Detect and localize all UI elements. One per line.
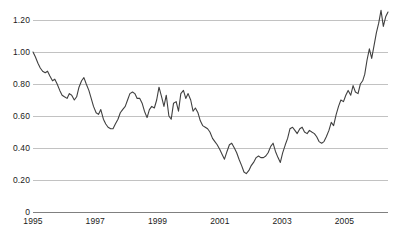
x-axis-tick-label: 1997 [75,217,115,226]
y-axis-tick-label: 1.20 [2,16,30,25]
x-axis-tick-label: 2003 [262,217,302,226]
y-axis-tick-label: 0.60 [2,112,30,121]
x-axis-tick-label: 1999 [138,217,178,226]
chart-container: 1.201.000.800.600.400.200 19951997199920… [0,0,401,242]
x-axis-tick-label: 1995 [13,217,53,226]
x-axis-tick-label: 2005 [324,217,364,226]
y-axis-tick-label: 1.00 [2,48,30,57]
line-chart-plot [0,0,401,242]
figure-caption [4,233,398,241]
y-axis-tick-label: 0.80 [2,80,30,89]
x-axis-tick-label: 2001 [200,217,240,226]
y-axis-tick-label: 0.40 [2,144,30,153]
gridlines [33,20,388,180]
y-axis-tick-label: 0.20 [2,176,30,185]
series-line-1 [33,10,388,173]
